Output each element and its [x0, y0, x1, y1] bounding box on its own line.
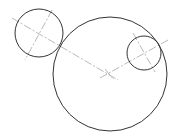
centerline-right-perpendicular	[133, 33, 155, 72]
centerline-left-perpendicular	[25, 10, 52, 60]
circle-large-center	[53, 17, 167, 131]
circle-small-left	[15, 9, 63, 57]
centerline-center-to-right	[100, 40, 168, 78]
circles-tangent-diagram	[0, 0, 176, 139]
centerline-left-to-center	[12, 18, 118, 80]
diagram-canvas	[0, 0, 176, 139]
circle-small-right	[127, 36, 161, 70]
